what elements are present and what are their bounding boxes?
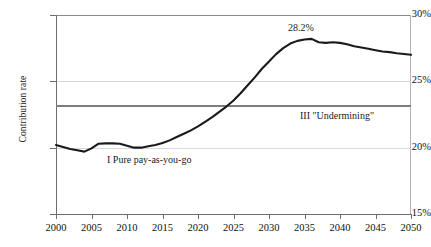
peak-value-label: 28.2% <box>288 22 314 33</box>
series-3-label: III "Undermining" <box>300 110 374 121</box>
series-line-pure-payg <box>56 39 411 152</box>
series-plot-layer <box>0 0 431 247</box>
series-1-label: I Pure pay-as-you-go <box>107 154 191 165</box>
contribution-rate-chart: Contribution rate 30%25%20%15% 200020052… <box>0 0 431 247</box>
